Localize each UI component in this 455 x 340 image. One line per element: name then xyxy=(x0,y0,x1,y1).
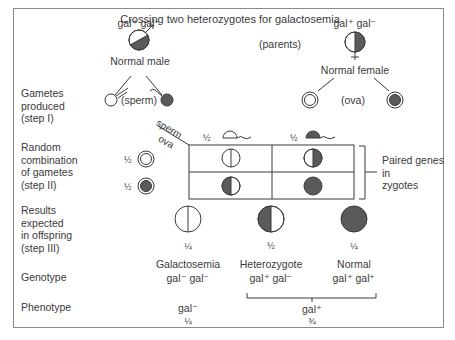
zygote-bracket xyxy=(359,146,365,199)
grid-ovum-mutant-icon xyxy=(138,178,154,194)
grid-sperm-mutant-icon xyxy=(306,131,335,139)
offspring-name-2: Heterozygote xyxy=(240,258,302,270)
offspring-genotype-1: gal⁻ gal⁻ xyxy=(167,272,210,284)
label-step2: Random combination of gametes (step II) xyxy=(21,141,78,191)
label-phenotype: Phenotype xyxy=(21,301,71,314)
grid-ovum-normal-icon xyxy=(138,151,154,167)
offspring-name-1: Galactosemia xyxy=(156,258,220,270)
col-fraction-2: ½ xyxy=(290,132,298,144)
zygote-bracket-label: Paired genes in zygotes xyxy=(382,154,444,192)
ovum-mutant-icon xyxy=(387,92,403,108)
label-genotype: Genotype xyxy=(21,271,67,284)
offspring-galactosemia-icon xyxy=(175,206,201,232)
offspring-fraction-2: ½ xyxy=(267,240,275,252)
offspring-genotype-2: gal⁺ gal⁻ xyxy=(250,272,293,284)
offspring-heterozygote-icon xyxy=(258,206,284,232)
phenotype-bracket xyxy=(247,293,376,298)
col-fraction-1: ½ xyxy=(203,132,211,144)
label-step3: Results expected in offspring (step III) xyxy=(21,204,72,254)
parents-label: (parents) xyxy=(259,38,301,50)
offspring-normal-icon xyxy=(341,206,367,232)
female-name: Normal female xyxy=(321,64,389,76)
offspring-name-3: Normal xyxy=(337,258,371,270)
offspring-fraction-1: ¼ xyxy=(184,240,192,252)
ova-label: (ova) xyxy=(341,94,365,106)
cell-open-dark-icon xyxy=(304,149,322,167)
row-fraction-1: ½ xyxy=(124,154,132,166)
sperm-label: (sperm) xyxy=(121,94,157,106)
row-fraction-2: ½ xyxy=(124,181,132,193)
female-genotype: gal⁺ gal⁻ xyxy=(334,17,377,29)
phenotype-label-2: gal⁺ xyxy=(302,303,322,315)
offspring-genotype-3: gal⁺ gal⁺ xyxy=(333,272,376,284)
cell-open-open-icon xyxy=(222,149,240,167)
phenotype-label-1: gal⁻ xyxy=(178,302,198,314)
phenotype-fraction-2: ¾ xyxy=(308,315,316,327)
cell-dark-open-icon xyxy=(222,177,240,195)
offspring-fraction-3: ¼ xyxy=(350,240,358,252)
male-genotype: gal⁺ gal⁻ xyxy=(118,17,161,29)
phenotype-fraction-1: ¼ xyxy=(184,315,192,327)
grid-sperm-normal-icon xyxy=(223,131,251,139)
ovum-normal-icon xyxy=(302,92,318,108)
male-name: Normal male xyxy=(110,55,170,67)
female-parent-icon xyxy=(345,32,365,60)
cell-dark-dark-icon xyxy=(304,177,322,195)
label-step1: Gametes produced (step I) xyxy=(21,87,65,125)
